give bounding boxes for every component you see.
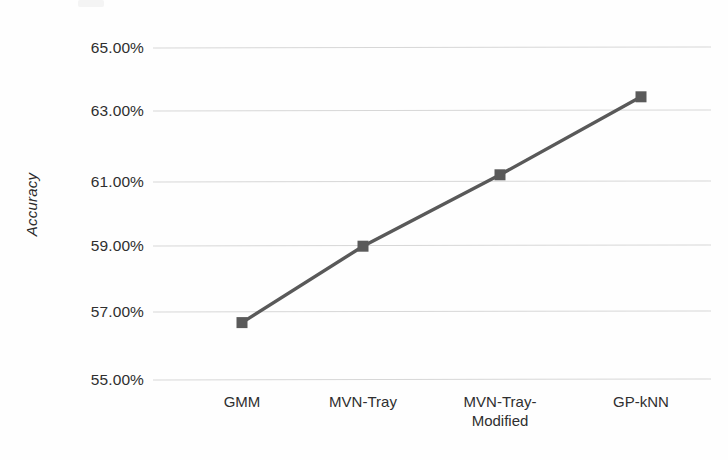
x-tick-label-mvn-tray-modified: MVN-Tray- Modified	[425, 392, 575, 430]
x-tick-label-gp-knn: GP-kNN	[566, 392, 716, 411]
data-point-marker	[358, 241, 369, 252]
data-point-marker	[636, 91, 647, 102]
x-tick-label-mvn-tray-modified-line2: Modified	[425, 411, 575, 430]
x-tick-label-gp-knn-line1: GP-kNN	[566, 392, 716, 411]
x-tick-label-mvn-tray-line1: MVN-Tray	[288, 392, 438, 411]
data-point-marker	[237, 317, 248, 328]
accuracy-line-chart: Accuracy 65.00% 63.00% 61.00% 59.00% 57.…	[0, 0, 728, 460]
data-point-marker	[495, 169, 506, 180]
series-layer	[0, 0, 728, 460]
series-line-accuracy	[242, 97, 641, 323]
x-tick-label-mvn-tray-modified-line1: MVN-Tray-	[425, 392, 575, 411]
x-tick-label-mvn-tray: MVN-Tray	[288, 392, 438, 411]
